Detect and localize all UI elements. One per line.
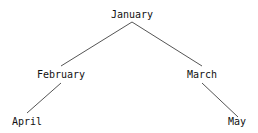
- node-may: May: [228, 116, 246, 128]
- tree-diagram: January February March April May: [0, 0, 258, 133]
- edge-january-february: [61, 22, 132, 66]
- edge-january-march: [132, 22, 202, 66]
- node-january: January: [111, 9, 153, 21]
- edge-march-may: [202, 83, 238, 117]
- node-february: February: [37, 69, 85, 81]
- edge-february-april: [27, 83, 61, 113]
- node-march: March: [187, 69, 217, 81]
- node-april: April: [12, 116, 42, 128]
